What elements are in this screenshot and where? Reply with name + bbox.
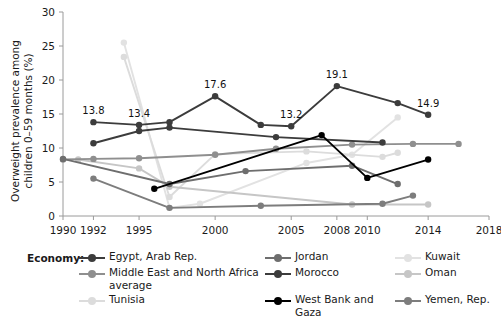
data-point (395, 181, 401, 187)
data-point (395, 100, 401, 106)
data-point (212, 93, 218, 99)
x-axis-tick-label: 2005 (278, 224, 305, 236)
legend-label: West Bank and Gaza (295, 293, 395, 318)
legend-swatch-icon (265, 251, 291, 264)
x-axis-tick-label: 2008 (323, 224, 350, 236)
chart-legend: Economy: Egypt, Arab Rep.JordanKuwaitMid… (0, 248, 501, 321)
chart-container: Overweight prevalence among children 0–5… (0, 0, 501, 321)
data-point (303, 160, 309, 166)
x-axis-tick-label: 1995 (126, 224, 153, 236)
data-point (136, 155, 142, 161)
data-label: 13.4 (128, 108, 150, 119)
y-axis-tick-label: 15 (42, 108, 55, 120)
legend-label: Tunisia (109, 293, 145, 306)
data-point (395, 150, 401, 156)
data-label: 13.8 (82, 105, 104, 116)
legend-item-yemen[interactable]: Yemen, Rep. (395, 291, 499, 307)
legend-swatch-icon (395, 267, 421, 280)
data-point (334, 83, 340, 89)
data-label: 14.9 (417, 98, 439, 109)
legend-item-morocco[interactable]: Morocco (265, 264, 395, 280)
legend-label: Morocco (295, 266, 339, 279)
data-point (410, 192, 416, 198)
series-oman (75, 156, 431, 207)
legend-row: Middle East and North Africa averageMoro… (79, 264, 499, 291)
x-axis-tick-label: 2010 (354, 224, 381, 236)
data-point (90, 119, 96, 125)
legend-item-middle-east-and-north-africa-average[interactable]: Middle East and North Africa average (79, 264, 265, 291)
data-point (90, 156, 96, 162)
data-point (121, 39, 127, 45)
data-point (379, 139, 385, 145)
data-point (197, 201, 203, 207)
legend-items: Egypt, Arab Rep.JordanKuwaitMiddle East … (79, 248, 499, 318)
legend-swatch-icon (265, 294, 291, 307)
legend-item-west-bank-and-gaza[interactable]: West Bank and Gaza (265, 291, 395, 318)
legend-row: TunisiaWest Bank and GazaYemen, Rep. (79, 291, 499, 318)
legend-label: Kuwait (425, 250, 460, 263)
legend-item-egypt[interactable]: Egypt, Arab Rep. (79, 248, 265, 264)
y-axis-tick-label: 30 (42, 6, 55, 18)
legend-swatch-icon (79, 267, 105, 280)
data-point (425, 156, 431, 162)
x-axis-tick-label: 1990 (50, 224, 77, 236)
data-point (242, 168, 248, 174)
data-label: 13.2 (280, 109, 302, 120)
legend-item-oman[interactable]: Oman (395, 264, 499, 280)
data-point (136, 128, 142, 134)
legend-swatch-icon (395, 294, 421, 307)
legend-label: Jordan (295, 250, 328, 263)
legend-title: Economy: (27, 252, 84, 264)
series-west-bank-and-gaza (151, 132, 431, 192)
line-chart-plot: 0510152025301990199219952000200520082010… (0, 0, 501, 260)
y-axis-tick-label: 10 (42, 142, 55, 154)
data-point (425, 201, 431, 207)
legend-label: Egypt, Arab Rep. (109, 250, 197, 263)
data-point (166, 194, 172, 200)
data-point (395, 114, 401, 120)
data-point (166, 124, 172, 130)
data-point (121, 54, 127, 60)
data-point (288, 123, 294, 129)
legend-item-jordan[interactable]: Jordan (265, 248, 395, 264)
data-point (425, 111, 431, 117)
data-point (258, 203, 264, 209)
data-point (455, 141, 461, 147)
data-point (90, 140, 96, 146)
data-point (364, 175, 370, 181)
series-line (78, 160, 428, 205)
legend-swatch-icon (79, 294, 105, 307)
data-point (379, 201, 385, 207)
legend-swatch-icon (265, 267, 291, 280)
x-axis-tick-label: 2000 (202, 224, 229, 236)
y-axis-tick-label: 0 (48, 210, 55, 222)
data-point (90, 175, 96, 181)
data-point (60, 156, 66, 162)
data-point (166, 205, 172, 211)
legend-item-kuwait[interactable]: Kuwait (395, 248, 499, 264)
legend-label: Yemen, Rep. (425, 293, 490, 306)
legend-swatch-icon (79, 251, 105, 264)
series-line (63, 159, 398, 184)
data-point (303, 148, 309, 154)
legend-swatch-icon (395, 251, 421, 264)
legend-label: Middle East and North Africa average (109, 266, 259, 291)
y-axis-tick-label: 20 (42, 74, 55, 86)
data-point (273, 134, 279, 140)
data-point (136, 165, 142, 171)
x-axis-tick-label: 2014 (415, 224, 442, 236)
data-point (258, 122, 264, 128)
data-point (136, 122, 142, 128)
data-label: 17.6 (204, 79, 226, 90)
data-label: 19.1 (326, 69, 348, 80)
x-axis-tick-label: 2018 (476, 224, 501, 236)
series-morocco (90, 124, 385, 146)
data-point (212, 152, 218, 158)
x-axis-tick-label: 1992 (80, 224, 107, 236)
y-axis-tick-label: 25 (42, 40, 55, 52)
legend-label: Oman (425, 266, 457, 279)
data-point (318, 132, 324, 138)
data-point (349, 141, 355, 147)
legend-item-tunisia[interactable]: Tunisia (79, 291, 265, 307)
data-point (410, 141, 416, 147)
